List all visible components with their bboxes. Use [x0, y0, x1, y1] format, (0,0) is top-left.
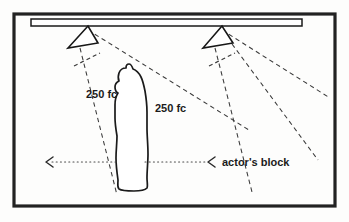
lighting-diagram-figure: 250 fc 250 fc actor's block [0, 0, 349, 222]
right-beam-edge-near [215, 48, 252, 192]
left-intensity-label: 250 fc [86, 88, 117, 100]
diagram-canvas: 250 fc 250 fc actor's block [0, 0, 349, 222]
left-beam-center-stub [74, 53, 100, 66]
right-beam-edge-far [222, 30, 330, 98]
right-beam-edge-mid [232, 44, 318, 160]
right-intensity-label: 250 fc [155, 102, 186, 114]
left-beam-edge-near [80, 48, 117, 195]
right-beam-center-stub [209, 53, 235, 66]
actor-silhouette [115, 64, 148, 191]
block-right-arrowhead-icon [208, 157, 215, 167]
left-lantern-icon [68, 26, 98, 48]
right-lantern-icon [203, 26, 233, 48]
actor-block-label: actor's block [222, 156, 290, 168]
lighting-pipe-batten [31, 19, 302, 26]
